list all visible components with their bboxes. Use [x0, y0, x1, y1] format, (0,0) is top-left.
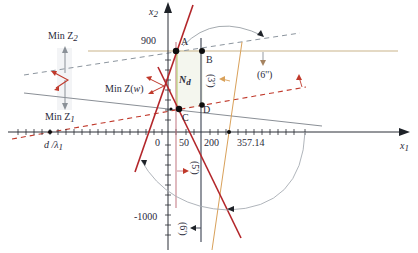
- label-c6p: (6'): [177, 222, 189, 235]
- x-tick-0: 0: [155, 137, 160, 148]
- x-tick-50: 50: [179, 137, 189, 148]
- x1-axis-label: x1: [399, 140, 409, 153]
- label-c: C: [182, 112, 189, 123]
- label-c6pp: (6''): [257, 69, 272, 81]
- x-tick-200: 200: [204, 137, 219, 148]
- c3p-arrow-icon: [219, 76, 225, 82]
- c4p-arrow-icon: [296, 74, 302, 80]
- min-zw-label: Min Z(w): [105, 83, 144, 95]
- label-c3p: (3'): [205, 74, 217, 87]
- c5p-arrow-icon: [183, 168, 189, 174]
- y-tick-minus-1000: -1000: [134, 211, 157, 222]
- label-a: A: [181, 36, 189, 47]
- point-a[interactable]: [173, 48, 179, 54]
- label-c5p: (5'): [189, 161, 201, 174]
- min-z1-label: Min Z1: [45, 111, 75, 124]
- lp-diagram: x2 x1 900 -1000 0 50 200 357.14 d /λ1 A …: [0, 0, 418, 253]
- y-tick-900: 900: [141, 35, 156, 46]
- label-d: D: [203, 104, 210, 115]
- x-tick-357: 357.14: [237, 137, 265, 148]
- x2-axis-label: x2: [148, 6, 158, 19]
- red-v-arrow-bottom-icon: [54, 86, 59, 91]
- x1-axis-arrow-icon: [399, 128, 410, 136]
- min-zw-arrow-up-icon: [146, 76, 152, 81]
- point-d-lambda[interactable]: [48, 130, 52, 134]
- point-b[interactable]: [199, 48, 205, 54]
- d-lambda-label: d /λ1: [44, 139, 63, 152]
- c6p-arrow-icon: [190, 225, 196, 231]
- c6pp-arrow-icon: [260, 60, 266, 66]
- rotation-arc-top: [183, 26, 263, 46]
- min-z2-label: Min Z2: [48, 30, 78, 43]
- point-357[interactable]: [227, 130, 231, 134]
- x2-axis-arrow-icon: [164, 2, 172, 13]
- label-b: B: [206, 54, 213, 65]
- point-y-tick: [170, 108, 173, 111]
